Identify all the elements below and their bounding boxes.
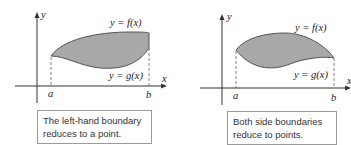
right-shaded-region xyxy=(236,33,334,68)
right-x-axis-arrow-icon xyxy=(345,86,351,91)
left-caption-line2: reduces to a point. xyxy=(43,127,146,140)
right-caption-line1: Both side boundaries xyxy=(233,115,331,128)
right-figure: y x y = f(x) y = g(x) a b xyxy=(200,11,351,105)
left-y-label: y xyxy=(40,9,46,20)
right-x-label: x xyxy=(346,75,351,86)
right-b-label: b xyxy=(331,92,336,103)
right-f-label: y = f(x) xyxy=(294,22,327,34)
right-a-label: a xyxy=(233,90,238,101)
right-y-axis-arrow-icon xyxy=(220,14,225,20)
left-x-axis-arrow-icon xyxy=(161,84,167,89)
right-caption-line2: reduce to points. xyxy=(233,128,331,141)
right-y-label: y xyxy=(226,11,232,22)
left-a-label: a xyxy=(48,88,53,99)
left-b-label: b xyxy=(146,89,151,100)
left-y-axis-arrow-icon xyxy=(35,12,40,18)
right-g-label: y = g(x) xyxy=(293,69,328,81)
left-g-label: y = g(x) xyxy=(108,70,143,82)
left-caption: The left-hand boundary reduces to a poin… xyxy=(37,110,152,144)
left-caption-line1: The left-hand boundary xyxy=(43,114,146,127)
left-f-label: y = f(x) xyxy=(109,17,142,29)
left-figure: y x y = f(x) y = g(x) a b xyxy=(15,9,167,103)
right-caption: Both side boundaries reduce to points. xyxy=(227,111,337,145)
left-shaded-region xyxy=(51,32,149,68)
left-x-label: x xyxy=(161,73,167,84)
